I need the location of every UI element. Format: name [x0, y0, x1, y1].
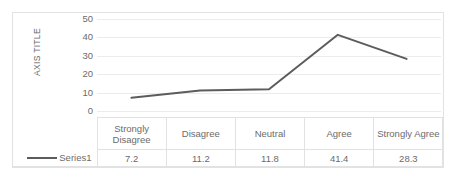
- y-tick-label: 50: [59, 14, 93, 24]
- table-value-cell: 41.4: [305, 150, 374, 167]
- y-tick-label: 0: [59, 106, 93, 116]
- chart-data-table: Strongly Disagree Disagree Neutral Agree…: [13, 117, 443, 167]
- y-axis-title: AXIS TITLE: [32, 14, 42, 90]
- gridlines-area: [97, 19, 441, 111]
- y-tick-label: 30: [59, 51, 93, 61]
- legend-entry-series1[interactable]: Series1: [13, 150, 97, 167]
- y-axis-tick-labels: 50 40 30 20 10 0: [59, 19, 93, 111]
- legend-line-swatch-icon: [27, 157, 57, 159]
- y-tick-label: 40: [59, 32, 93, 42]
- legend-label: Series1: [59, 152, 91, 163]
- chart-container[interactable]: AXIS TITLE 50 40 30 20 10 0: [12, 12, 444, 168]
- table-category-cell: Strongly Agree: [374, 118, 443, 150]
- table-value-cell: 7.2: [97, 150, 166, 167]
- table-value-cell: 11.8: [235, 150, 304, 167]
- table-category-cell: Agree: [305, 118, 374, 150]
- table-row-categories: Strongly Disagree Disagree Neutral Agree…: [13, 118, 443, 150]
- plot-region: AXIS TITLE 50 40 30 20 10 0: [13, 13, 443, 118]
- table-category-cell: Disagree: [166, 118, 235, 150]
- table-category-cell: Neutral: [235, 118, 304, 150]
- table-value-cell: 28.3: [374, 150, 443, 167]
- gridline: [97, 111, 441, 112]
- table-row-series1: Series1 7.2 11.2 11.8 41.4 28.3: [13, 150, 443, 167]
- series1-line[interactable]: [97, 19, 441, 111]
- table-value-cell: 11.2: [166, 150, 235, 167]
- table-corner-blank: [13, 118, 97, 150]
- y-tick-label: 20: [59, 69, 93, 79]
- table-category-cell: Strongly Disagree: [97, 118, 166, 150]
- y-tick-label: 10: [59, 88, 93, 98]
